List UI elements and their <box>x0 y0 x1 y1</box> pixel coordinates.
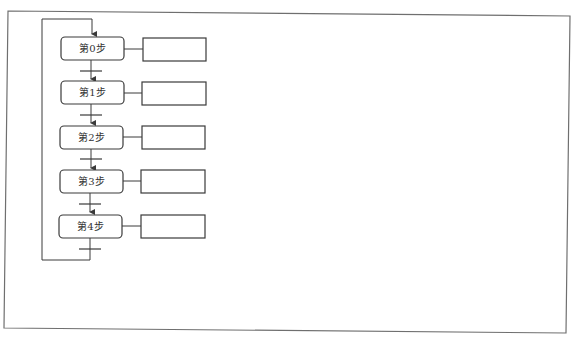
step-0: 第0步 <box>61 37 206 61</box>
step-3: 第3步 <box>60 170 205 193</box>
sfc-diagram: 第0步 第1步 第2步 第3步 第4步 <box>0 0 575 337</box>
step-label: 第3步 <box>78 175 104 187</box>
action-box <box>142 126 205 149</box>
action-box <box>142 82 206 105</box>
action-box <box>143 38 206 61</box>
step-label: 第4步 <box>77 220 103 232</box>
action-box <box>141 215 205 238</box>
step-label: 第0步 <box>79 42 105 54</box>
step-2: 第2步 <box>60 126 205 149</box>
step-label: 第2步 <box>78 131 104 143</box>
step-1: 第1步 <box>61 81 206 105</box>
step-label: 第1步 <box>79 86 105 98</box>
step-4: 第4步 <box>59 215 205 238</box>
action-box <box>141 170 205 193</box>
